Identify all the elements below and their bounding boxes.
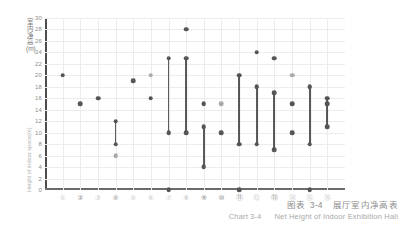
x-axis-line <box>45 188 345 190</box>
data-point <box>166 130 171 135</box>
gridline-horizontal <box>45 75 345 76</box>
gridline-horizontal <box>45 179 345 180</box>
data-point <box>272 90 277 95</box>
data-point <box>325 125 330 130</box>
y-axis-tick-label: 8 <box>38 141 42 147</box>
x-axis-tick-label: ⑧ <box>183 194 189 201</box>
data-point <box>237 188 242 193</box>
gridline-horizontal <box>45 52 345 53</box>
data-point <box>184 56 189 61</box>
data-point <box>307 85 312 90</box>
data-point <box>325 96 330 101</box>
data-point <box>254 142 259 147</box>
y-axis-tick-label: 14 <box>35 107 42 113</box>
x-axis-tick-label: ⑥ <box>148 194 154 201</box>
data-point <box>166 56 171 61</box>
x-axis-tick-label: ③ <box>95 194 101 201</box>
gridline-vertical <box>133 18 134 190</box>
range-bar <box>115 121 117 144</box>
data-point <box>149 73 154 78</box>
data-point <box>202 102 207 107</box>
data-point <box>254 50 259 55</box>
x-axis-tick-label: ① <box>60 194 66 201</box>
caption-cn-title: 展厅室内净高表 <box>333 200 398 210</box>
range-bar <box>256 87 258 144</box>
x-axis-tick-label: ⑤ <box>130 194 136 201</box>
x-axis-tick-label: ⑬ <box>271 194 278 201</box>
x-axis-tick-label: ⑫ <box>253 194 260 201</box>
range-bar <box>185 58 187 133</box>
data-point <box>131 79 136 84</box>
caption-en-title: Net Height of Indoor Exhibition Hall <box>274 212 398 221</box>
gridline-horizontal <box>45 167 345 168</box>
x-axis-tick-label: ⑪ <box>236 194 243 201</box>
x-axis-tick-label: ② <box>77 194 83 201</box>
data-point <box>290 130 295 135</box>
caption-en-number: 3-4 <box>250 212 261 221</box>
y-axis-tick-label: 10 <box>35 130 42 136</box>
x-axis-tick-label: ⑨ <box>201 194 207 201</box>
y-axis-tick-label: 16 <box>35 95 42 101</box>
data-point <box>219 102 224 107</box>
y-axis-label-cn: 室内净高(m) <box>26 19 35 53</box>
y-axis-tick-label: 28 <box>35 26 42 32</box>
data-point <box>166 188 171 193</box>
data-point <box>290 102 295 107</box>
range-bar <box>203 127 205 167</box>
plot-wrapper: 024681012141618202224262830①②③④⑤⑥⑦⑧⑨⑩⑪⑫⑬… <box>45 18 345 190</box>
y-axis-tick-label: 26 <box>35 38 42 44</box>
data-point <box>60 73 65 78</box>
data-point <box>184 27 189 32</box>
data-point <box>237 73 242 78</box>
y-axis-tick-label: 20 <box>35 72 42 78</box>
range-bar <box>273 93 275 150</box>
data-point <box>307 188 312 193</box>
y-axis-tick-label: 6 <box>38 153 42 159</box>
data-point <box>78 102 83 107</box>
caption-cn-prefix: 图表 <box>287 200 306 210</box>
y-axis-tick-label: 30 <box>35 15 42 21</box>
y-axis-tick-label: 0 <box>38 187 42 193</box>
y-axis-tick-label: 18 <box>35 84 42 90</box>
caption-en-prefix: Chart <box>229 212 248 221</box>
y-axis-tick-label: 12 <box>35 118 42 124</box>
data-point <box>202 125 207 130</box>
y-axis-label-en: Height of indoor space(m) <box>26 72 32 192</box>
data-point <box>113 119 118 124</box>
data-point <box>113 153 118 158</box>
y-axis-tick-label: 2 <box>38 176 42 182</box>
data-point <box>202 165 207 170</box>
data-point <box>272 56 277 61</box>
gridline-horizontal <box>45 87 345 88</box>
data-point <box>272 148 277 153</box>
data-point <box>149 96 154 101</box>
data-point <box>219 130 224 135</box>
plot-area: 024681012141618202224262830①②③④⑤⑥⑦⑧⑨⑩⑪⑫⑬… <box>45 18 345 190</box>
gridline-horizontal <box>45 110 345 111</box>
x-axis-tick-label: ④ <box>112 194 118 201</box>
data-point <box>184 130 189 135</box>
y-axis-line <box>45 18 47 190</box>
gridline-horizontal <box>45 29 345 30</box>
caption-english: Chart3-4Net Height of Indoor Exhibition … <box>229 212 398 221</box>
data-point <box>96 96 101 101</box>
y-axis-tick-label: 4 <box>38 164 42 170</box>
data-point <box>290 73 295 78</box>
gridline-horizontal <box>45 41 345 42</box>
range-bar <box>309 87 311 144</box>
range-bar <box>168 58 170 133</box>
y-axis-tick-label: 24 <box>35 49 42 55</box>
data-point <box>325 102 330 107</box>
figure-chart-3-4: 室内净高(m) Height of indoor space(m) 024681… <box>0 0 406 235</box>
y-axis-tick-label: 22 <box>35 61 42 67</box>
range-bar <box>238 75 240 144</box>
gridline-vertical <box>116 18 117 190</box>
gridline-horizontal <box>45 133 345 134</box>
gridline-horizontal <box>45 98 345 99</box>
x-axis-tick-label: ⑩ <box>218 194 224 201</box>
gridline-vertical <box>151 18 152 190</box>
data-point <box>237 142 242 147</box>
data-point <box>113 142 118 147</box>
data-point <box>254 85 259 90</box>
caption-chinese: 图表3-4展厅室内净高表 <box>287 198 398 210</box>
